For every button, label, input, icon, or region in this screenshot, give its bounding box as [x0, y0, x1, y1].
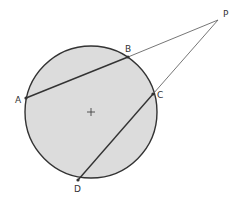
point-a	[24, 96, 27, 99]
label-d: D	[74, 184, 81, 194]
label-c: C	[157, 90, 163, 100]
segment-bp	[128, 20, 218, 57]
point-b	[126, 55, 129, 58]
segment-cp	[153, 20, 218, 94]
label-a: A	[15, 95, 22, 105]
label-p: P	[223, 9, 229, 19]
circle-secant-diagram: ABCDP	[0, 0, 240, 198]
label-b: B	[125, 44, 131, 54]
point-c	[151, 92, 154, 95]
point-d	[76, 178, 79, 181]
